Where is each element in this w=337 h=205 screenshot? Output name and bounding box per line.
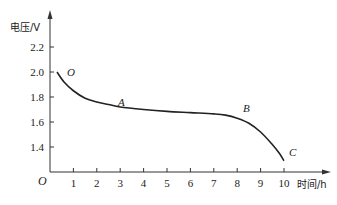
x-tick-label: 3 — [110, 177, 130, 189]
discharge-curve — [57, 72, 284, 161]
point-label-o: O — [67, 66, 75, 78]
x-tick-label: 8 — [227, 177, 247, 189]
y-tick-label: 2.2 — [14, 41, 44, 53]
x-tick-label: 4 — [134, 177, 154, 189]
chart-canvas — [0, 0, 337, 205]
x-tick-label: 5 — [157, 177, 177, 189]
x-axis-arrow-icon — [322, 170, 331, 175]
x-tick-label: 7 — [204, 177, 224, 189]
x-axis-label: 时间/h — [297, 179, 327, 191]
x-tick-label: 10 — [274, 177, 294, 189]
y-tick-label: 1.8 — [14, 91, 44, 103]
point-label-b: B — [243, 102, 250, 114]
y-tick-label: 2.0 — [14, 66, 44, 78]
x-tick-label: 6 — [180, 177, 200, 189]
y-axis-label: 电压/V — [10, 22, 40, 34]
x-tick-marks — [73, 168, 284, 172]
origin-label: O — [38, 175, 47, 187]
y-tick-marks — [50, 47, 54, 147]
y-axis-arrow-icon — [48, 10, 53, 19]
y-tick-label: 1.4 — [14, 141, 44, 153]
y-tick-label: 1.6 — [14, 116, 44, 128]
x-tick-label: 1 — [63, 177, 83, 189]
point-label-a: A — [118, 96, 125, 108]
x-tick-label: 2 — [87, 177, 107, 189]
point-label-c: C — [289, 146, 296, 158]
x-tick-label: 9 — [251, 177, 271, 189]
